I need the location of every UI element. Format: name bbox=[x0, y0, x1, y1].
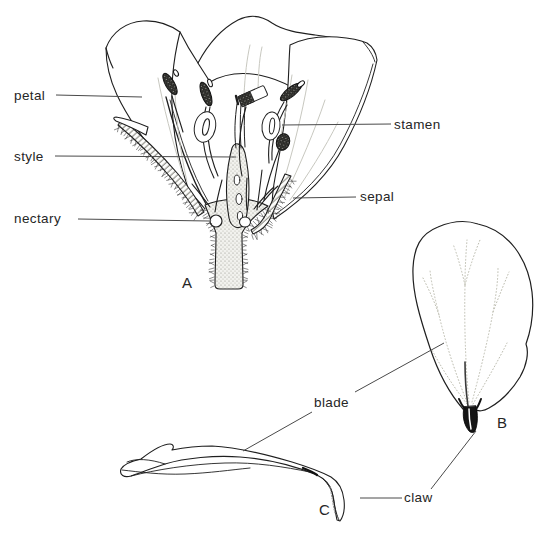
leader-lines bbox=[55, 95, 476, 498]
nectary-left bbox=[210, 215, 222, 227]
petal-side-view-drawing bbox=[121, 444, 345, 521]
label-petal: petal bbox=[14, 89, 45, 103]
leader-style bbox=[55, 156, 236, 157]
label-sepal: sepal bbox=[360, 190, 394, 204]
label-claw: claw bbox=[404, 491, 433, 505]
leader-blade-c bbox=[243, 412, 312, 451]
leader-claw-b bbox=[431, 431, 476, 489]
panel-letter-a: A bbox=[182, 275, 192, 290]
label-blade: blade bbox=[314, 396, 349, 410]
label-stamen: stamen bbox=[394, 118, 441, 132]
diagram-canvas: petal style nectary stamen sepal blade c… bbox=[0, 0, 550, 535]
hair-strokes bbox=[209, 235, 215, 288]
label-nectary: nectary bbox=[14, 212, 61, 226]
leader-nectary bbox=[78, 219, 209, 221]
leader-blade-b bbox=[355, 343, 444, 392]
botanical-diagram-svg bbox=[0, 0, 550, 535]
panel-letter-b: B bbox=[497, 415, 507, 430]
hair-strokes bbox=[243, 235, 248, 288]
label-style: style bbox=[14, 150, 44, 164]
panel-letter-c: C bbox=[319, 502, 330, 517]
petal-c-outline bbox=[121, 444, 345, 521]
flower-section-drawing bbox=[106, 16, 377, 289]
petal-b-blade bbox=[413, 222, 533, 411]
nectary-right bbox=[240, 217, 251, 227]
petal-front-view-drawing bbox=[413, 222, 533, 433]
